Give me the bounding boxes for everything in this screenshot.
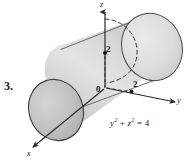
axis-label-z: z bbox=[100, 1, 103, 9]
equation-value: 4 bbox=[145, 118, 150, 128]
z-axis-tick-label-2: 2 bbox=[106, 45, 111, 54]
equation-equals: = bbox=[137, 118, 142, 128]
cylinder-diagram-svg bbox=[0, 0, 188, 163]
problem-number: 3. bbox=[4, 80, 13, 92]
y-tick-dot bbox=[130, 90, 134, 94]
origin-label: 0 bbox=[96, 85, 101, 94]
surface-equation-label: y2 + z2 = 4 bbox=[110, 117, 149, 128]
equation-term2-exponent: 2 bbox=[131, 117, 134, 123]
cylinder-figure: 3. z y x 2 2 0 y2 + z2 = 4 bbox=[0, 0, 188, 163]
equation-plus: + bbox=[120, 118, 125, 128]
y-axis-tick-label-2: 2 bbox=[133, 80, 138, 89]
equation-term1-exponent: 2 bbox=[114, 117, 117, 123]
axis-label-y: y bbox=[177, 97, 181, 105]
axis-label-x: x bbox=[27, 150, 31, 158]
